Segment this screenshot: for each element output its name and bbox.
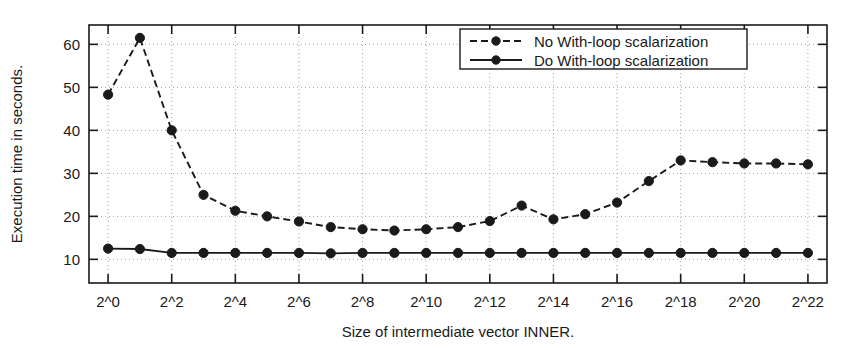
y-tick-label: 50 xyxy=(63,79,80,96)
data-point xyxy=(772,159,781,168)
data-point xyxy=(549,215,558,224)
data-point xyxy=(517,248,526,257)
data-point xyxy=(708,158,717,167)
data-point xyxy=(676,156,685,165)
y-axis-ticks: 102030405060 xyxy=(63,36,827,268)
data-point xyxy=(644,248,653,257)
x-tick-label: 2^6 xyxy=(287,293,311,310)
data-point xyxy=(708,248,717,257)
y-tick-label: 60 xyxy=(63,36,80,53)
y-tick-label: 10 xyxy=(63,251,80,268)
x-tick-label: 2^2 xyxy=(160,293,184,310)
y-axis-title: Execution time in seconds. xyxy=(8,65,25,243)
data-point xyxy=(453,223,462,232)
chart-legend: No With-loop scalarizationDo With-loop s… xyxy=(460,29,747,69)
data-point xyxy=(263,248,272,257)
data-point xyxy=(485,248,494,257)
data-point xyxy=(676,248,685,257)
data-point xyxy=(803,160,812,169)
data-point xyxy=(294,248,303,257)
data-point xyxy=(135,244,144,253)
x-tick-label: 2^12 xyxy=(474,293,506,310)
legend-sample-marker-1 xyxy=(492,56,500,64)
legend-label-0: No With-loop scalarization xyxy=(534,33,708,50)
x-tick-label: 2^18 xyxy=(665,293,697,310)
data-point xyxy=(358,225,367,234)
data-point xyxy=(231,206,240,215)
x-tick-label: 2^8 xyxy=(351,293,375,310)
data-point xyxy=(549,248,558,257)
data-point xyxy=(167,126,176,135)
data-point xyxy=(612,198,621,207)
data-point xyxy=(390,248,399,257)
data-point xyxy=(485,216,494,225)
y-tick-label: 30 xyxy=(63,165,80,182)
x-tick-label: 2^4 xyxy=(223,293,247,310)
x-tick-label: 2^0 xyxy=(96,293,120,310)
legend-sample-marker-0 xyxy=(492,37,500,45)
x-tick-label: 2^14 xyxy=(537,293,569,310)
data-point xyxy=(358,248,367,257)
x-tick-label: 2^22 xyxy=(792,293,824,310)
y-tick-label: 40 xyxy=(63,122,80,139)
data-point xyxy=(326,223,335,232)
chart-svg: Execution time in seconds. Size of inter… xyxy=(0,0,858,350)
data-point xyxy=(263,212,272,221)
y-tick-label: 20 xyxy=(63,208,80,225)
data-point xyxy=(803,248,812,257)
data-point xyxy=(422,225,431,234)
chart-figure: Execution time in seconds. Size of inter… xyxy=(0,0,858,350)
data-point xyxy=(453,248,462,257)
data-point xyxy=(772,248,781,257)
data-point xyxy=(581,210,590,219)
data-point xyxy=(740,159,749,168)
data-point xyxy=(294,217,303,226)
data-point xyxy=(103,244,112,253)
legend-label-1: Do With-loop scalarization xyxy=(534,52,708,69)
data-point xyxy=(581,248,590,257)
data-point xyxy=(135,33,144,42)
data-point xyxy=(740,248,749,257)
x-tick-label: 2^10 xyxy=(410,293,442,310)
data-point xyxy=(103,90,112,99)
data-point xyxy=(326,249,335,258)
data-point xyxy=(612,248,621,257)
data-point xyxy=(167,248,176,257)
data-point xyxy=(422,248,431,257)
x-tick-label: 2^16 xyxy=(601,293,633,310)
data-point xyxy=(517,201,526,210)
data-point xyxy=(199,190,208,199)
data-point xyxy=(644,176,653,185)
data-point xyxy=(231,248,240,257)
data-point xyxy=(390,226,399,235)
x-axis-title: Size of intermediate vector INNER. xyxy=(342,323,575,340)
data-point xyxy=(199,248,208,257)
x-tick-label: 2^20 xyxy=(728,293,760,310)
